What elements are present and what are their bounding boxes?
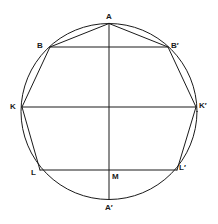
- segment-b-prime-k-prime: [168, 47, 196, 107]
- point-label-k: K: [10, 103, 16, 111]
- segment-a-b-prime: [109, 24, 168, 48]
- point-label-l: L: [31, 169, 36, 177]
- geometry-diagram: A B B′ K K′ L L′ M A′: [0, 0, 218, 224]
- segment-k-l: [22, 107, 40, 170]
- point-label-m: M: [112, 173, 119, 181]
- point-label-k-prime: K′: [199, 102, 207, 110]
- segment-a-b: [50, 24, 109, 48]
- segment-b-k: [22, 47, 50, 107]
- diagram-canvas: [0, 0, 218, 224]
- point-label-l-prime: L′: [179, 164, 186, 172]
- point-label-a-prime: A′: [105, 204, 113, 212]
- point-label-b: B: [37, 42, 43, 50]
- point-label-a: A: [106, 13, 112, 21]
- point-label-b-prime: B′: [171, 42, 179, 50]
